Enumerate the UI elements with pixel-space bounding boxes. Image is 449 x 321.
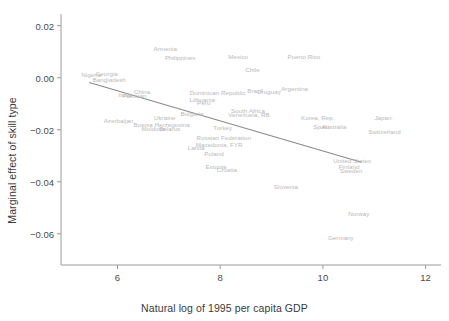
data-point-label: Croatia <box>217 166 237 173</box>
data-point-label: Japan <box>374 114 391 121</box>
data-point-label: Turkey <box>213 124 232 131</box>
data-point-label: Chile <box>245 65 259 72</box>
data-point-label: Belarus <box>159 124 180 131</box>
x-tick-label: 10 <box>318 272 329 283</box>
data-point-label: Germany <box>328 233 354 240</box>
data-point-label: Puerto Rico <box>287 52 320 59</box>
scatter-chart: ArmeniaPhilippinesMexicoPuerto RicoChile… <box>0 0 449 321</box>
data-point-label: Peru <box>197 99 210 106</box>
x-tick-label: 6 <box>115 272 120 283</box>
data-point-label: Uruguay <box>257 88 281 95</box>
x-axis-title: Natural log of 1995 per capita GDP <box>0 302 449 314</box>
data-point-label: Bangladesh <box>93 75 126 82</box>
data-point-label: Argentina <box>281 84 308 91</box>
data-point-label: Pakistan <box>122 91 146 98</box>
data-point-label: Australia <box>322 123 347 130</box>
data-point-label: Korea, Rep. <box>301 114 335 121</box>
data-point-label: Sweden <box>340 167 363 174</box>
data-point-label: Dominican Republic <box>190 88 246 95</box>
data-point-label: Azerbaijan <box>104 116 134 123</box>
data-point-label: Armenia <box>154 45 177 52</box>
plot-area <box>0 0 449 321</box>
data-point-label: Mexico <box>228 52 248 59</box>
data-point-label: Latvia <box>188 144 205 151</box>
data-point-label: Slovenia <box>274 183 298 190</box>
axes <box>57 14 441 269</box>
data-point-label: Norway <box>348 209 369 216</box>
x-tick-label: 12 <box>420 272 431 283</box>
data-point-label: Switzerland <box>368 127 401 134</box>
data-point-label: Philippines <box>165 54 195 61</box>
data-point-label: Venezuela, RB <box>228 111 270 118</box>
data-point-label: Bulgaria <box>180 110 203 117</box>
y-axis-title: Marginal effect of skill type <box>4 0 20 321</box>
x-tick-label: 8 <box>218 272 223 283</box>
data-point-label: Poland <box>204 149 224 156</box>
